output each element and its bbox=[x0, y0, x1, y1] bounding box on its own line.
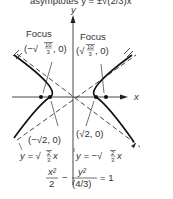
y-axis-arrow-icon bbox=[71, 15, 76, 23]
x-axis-arrow-icon bbox=[120, 95, 128, 100]
focus-left-den: 3 bbox=[47, 49, 51, 55]
asymptote-right-den: 3 bbox=[111, 157, 115, 163]
focus-right-den: 3 bbox=[89, 51, 93, 57]
asymptote-left-num: 2 bbox=[47, 150, 51, 156]
equation-term2-num: y² bbox=[77, 166, 87, 177]
equation-minus: − bbox=[62, 172, 68, 183]
asymptote-right-num: 2 bbox=[111, 150, 115, 156]
vertex-right-leader bbox=[86, 101, 94, 126]
asymptote-left-suffix: x bbox=[52, 150, 59, 161]
asymptote-right-prefix: y = −√ bbox=[75, 150, 103, 161]
asymptote-right-suffix: x bbox=[116, 150, 123, 161]
vertex-left-point bbox=[48, 95, 52, 99]
vertex-left-leader bbox=[51, 101, 58, 126]
asymptote-left-den: 3 bbox=[47, 157, 51, 163]
focus-right-prefix: (√ bbox=[76, 45, 85, 56]
hyperbola-left-branch bbox=[14, 55, 52, 138]
focus-left-point bbox=[39, 95, 43, 99]
equation-term1-num: x² bbox=[47, 166, 57, 177]
asymptote-right-arrow-icon bbox=[131, 143, 136, 148]
focus-left-num: 10 bbox=[45, 42, 52, 48]
vertex-right-label: (√2, 0) bbox=[76, 128, 103, 139]
vertex-right-point bbox=[94, 95, 98, 99]
focus-right-suffix: , 0) bbox=[95, 45, 109, 56]
equation-rhs: = 1 bbox=[100, 172, 113, 183]
focus-left-prefix: (−√ bbox=[24, 43, 39, 54]
focus-right-point bbox=[104, 95, 108, 99]
equation-term2-den: (4/3) bbox=[72, 178, 92, 189]
asymptote-left-prefix: y = √ bbox=[19, 150, 42, 161]
equation-term1-den: 2 bbox=[49, 178, 54, 189]
focus-left-suffix: , 0) bbox=[53, 43, 67, 54]
hyperbola-diagram: asymptotes y = ±√(2/3)x y x Focus bbox=[0, 0, 173, 199]
vertex-left-label: (−√2, 0) bbox=[28, 134, 61, 145]
focus-right-num: 10 bbox=[87, 44, 94, 50]
focus-right-title: Focus bbox=[80, 31, 106, 42]
x-axis-label: x bbox=[133, 91, 140, 102]
focus-left-title: Focus bbox=[26, 28, 52, 39]
top-cut-text: asymptotes y = ±√(2/3)x bbox=[30, 0, 132, 6]
